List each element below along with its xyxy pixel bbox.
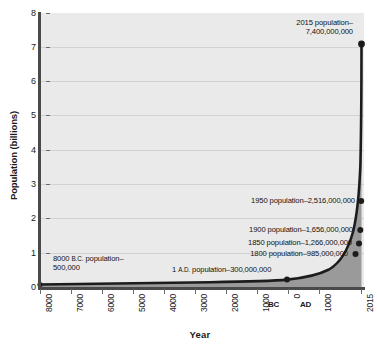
annotation-8000bc-pre: 8000 xyxy=(53,254,72,263)
y-tick-label-6: 6 xyxy=(14,76,36,86)
x-tick-label-bc: BC xyxy=(268,300,279,309)
y-tick-mark-1 xyxy=(46,253,50,254)
data-point-1850 xyxy=(356,241,362,247)
y-tick-mark-6 xyxy=(46,81,50,82)
x-tick-mark-5000 xyxy=(133,289,134,294)
x-tick-label-5000: 5000 xyxy=(137,294,147,312)
data-point-1800 xyxy=(353,251,359,257)
x-tick-mark-2000 xyxy=(226,289,227,294)
x-tick-label-8000: 8000 xyxy=(44,294,54,312)
y-tick-mark-3 xyxy=(46,184,50,185)
annotation-8000bc-era: B.C. xyxy=(72,255,84,262)
population-curve-layer xyxy=(0,0,377,348)
data-point-1ad xyxy=(284,277,290,283)
y-tick-mark-2 xyxy=(46,218,50,219)
x-tick-mark-1000ad xyxy=(319,289,320,294)
data-point-1900 xyxy=(357,227,363,233)
x-tick-label-ad: AD xyxy=(300,300,311,309)
y-tick-mark-7 xyxy=(46,47,50,48)
annotation-1850: 1850 population–1,266,000,000 xyxy=(190,238,352,247)
x-tick-label-2000: 2000 xyxy=(230,294,240,312)
y-tick-label-0: 0 xyxy=(14,282,36,292)
x-tick-label-3000: 3000 xyxy=(199,294,209,312)
y-tick-mark-4 xyxy=(46,150,50,151)
annotation-2015-line1: 2015 population– xyxy=(296,18,353,27)
x-tick-label-4000: 4000 xyxy=(168,294,178,312)
annotation-2015-line2: 7,400,000,000 xyxy=(200,27,353,36)
x-tick-mark-3000 xyxy=(195,289,196,294)
y-tick-label-7: 7 xyxy=(14,42,36,52)
x-tick-label-6000: 6000 xyxy=(106,294,116,312)
x-tick-mark-zero xyxy=(288,289,289,294)
y-tick-label-8: 8 xyxy=(14,8,36,18)
annotation-1ad: 1 A.D. population–300,000,000 xyxy=(172,265,271,274)
x-axis-title: Year xyxy=(40,329,360,340)
annotation-1950: 1950 population–2,516,000,000 xyxy=(190,196,355,205)
annotation-2015: 2015 population– 7,400,000,000 xyxy=(200,18,353,36)
y-tick-mark-8 xyxy=(46,13,50,14)
x-tick-mark-8000 xyxy=(40,289,41,294)
x-tick-label-1000ad: 1000 xyxy=(323,294,333,312)
annotation-1ad-era: A.D. xyxy=(178,266,190,273)
annotation-8000bc-post: population– xyxy=(83,254,123,263)
annotation-1ad-post: population–300,000,000 xyxy=(190,265,271,274)
x-tick-label-2015: 2015 xyxy=(365,294,375,312)
annotation-8000bc-line2: 500,000 xyxy=(53,263,124,272)
x-tick-mark-1000bc xyxy=(257,289,258,294)
annotation-1900: 1900 population–1,656,000,000 xyxy=(190,225,353,234)
x-tick-mark-4000 xyxy=(164,289,165,294)
x-axis-line xyxy=(38,287,365,290)
annotation-8000bc: 8000 B.C. population– 500,000 xyxy=(53,254,124,272)
x-tick-label-zero: 0 xyxy=(292,294,302,299)
data-point-2015 xyxy=(358,41,365,48)
x-tick-mark-6000 xyxy=(102,289,103,294)
population-growth-chart: 8 7 6 5 4 3 2 1 0 Population (billions) … xyxy=(0,0,377,348)
y-axis-title: Population (billions) xyxy=(8,96,19,216)
x-tick-label-7000: 7000 xyxy=(75,294,85,312)
annotation-1800: 1800 population–985,000,000 xyxy=(190,249,348,258)
x-tick-mark-2015 xyxy=(361,289,362,294)
y-tick-label-1: 1 xyxy=(14,248,36,258)
x-tick-mark-7000 xyxy=(71,289,72,294)
y-tick-mark-5 xyxy=(46,115,50,116)
data-point-1950 xyxy=(358,198,364,204)
y-axis-line xyxy=(38,12,41,289)
